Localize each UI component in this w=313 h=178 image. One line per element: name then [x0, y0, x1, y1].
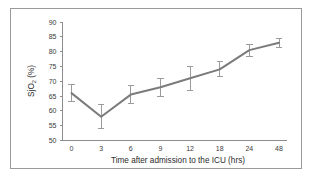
x-tick-label: 48 — [275, 145, 283, 152]
x-tick-label: 9 — [158, 145, 162, 152]
figure-container: 505560657075808590 036912182448 Time aft… — [0, 0, 313, 178]
y-axis: 505560657075808590 — [49, 19, 63, 145]
y-axis-title: SjO2 (%) — [27, 65, 37, 97]
x-tick-label: 18 — [216, 145, 224, 152]
x-axis-title: Time after admission to the ICU (hrs) — [111, 156, 245, 165]
data-series-line — [72, 43, 280, 117]
y-tick-label: 85 — [49, 33, 57, 40]
x-tick-label: 0 — [70, 145, 74, 152]
chart-canvas: 505560657075808590 036912182448 Time aft… — [0, 0, 313, 178]
x-axis: 036912182448 — [63, 141, 288, 152]
y-tick-label: 60 — [49, 107, 57, 114]
y-tick-label: 70 — [49, 78, 57, 85]
y-tick-label: 90 — [49, 19, 57, 26]
y-tick-label: 50 — [49, 137, 57, 144]
y-tick-label: 55 — [49, 122, 57, 129]
x-axis-tick-labels: 036912182448 — [70, 145, 283, 152]
y-axis-title-pre: SjO — [27, 83, 36, 97]
y-axis-tick-labels: 505560657075808590 — [49, 19, 57, 145]
x-tick-label: 12 — [186, 145, 194, 152]
y-axis-title-post: (%) — [27, 65, 36, 80]
x-tick-label: 6 — [129, 145, 133, 152]
x-tick-label: 3 — [99, 145, 103, 152]
y-tick-label: 65 — [49, 93, 57, 100]
y-tick-label: 80 — [49, 48, 57, 55]
y-tick-label: 75 — [49, 63, 57, 70]
y-axis-title-group: SjO2 (%) — [27, 65, 37, 97]
x-tick-label: 24 — [245, 145, 253, 152]
